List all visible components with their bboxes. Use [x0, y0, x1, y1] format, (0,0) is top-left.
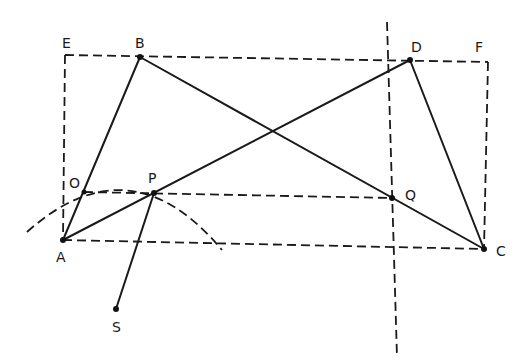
- point-P: [151, 190, 157, 196]
- label-E: E: [62, 35, 71, 51]
- segment-AD: [63, 60, 410, 240]
- point-A: [60, 237, 66, 243]
- label-Q: Q: [405, 187, 416, 203]
- dashed-line-AC: [63, 240, 484, 249]
- label-D: D: [411, 39, 422, 55]
- point-D: [407, 57, 413, 63]
- segment-AB: [63, 57, 140, 240]
- label-B: B: [135, 35, 145, 51]
- dashed-line-EA: [63, 55, 65, 240]
- dashed-line-OQ: [84, 192, 392, 198]
- label-O: O: [69, 175, 80, 191]
- point-S: [113, 306, 119, 312]
- label-A: A: [56, 249, 66, 265]
- label-C: C: [496, 243, 506, 259]
- label-F: F: [475, 39, 483, 55]
- label-S: S: [112, 319, 121, 335]
- label-P: P: [148, 170, 156, 186]
- dashed-line-EF: [65, 55, 488, 62]
- segment-DC: [410, 60, 484, 249]
- point-O: [82, 190, 87, 195]
- point-B: [137, 54, 143, 60]
- point-Q: [389, 195, 395, 201]
- dashed-line-FC: [484, 62, 488, 249]
- point-C: [481, 246, 487, 252]
- geometry-diagram: E B D F O P Q A C S: [0, 0, 526, 363]
